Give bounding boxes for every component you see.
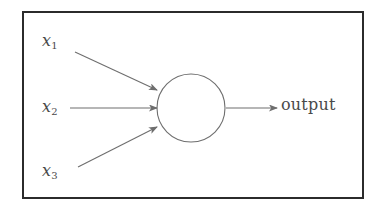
input-label-x2: x2 <box>42 99 58 117</box>
input-label-x2-sub: 2 <box>51 106 57 117</box>
input-label-x3: x3 <box>42 163 58 181</box>
input-label-x3-base: x <box>42 161 51 180</box>
input-label-x1: x1 <box>42 33 58 51</box>
figure-canvas: x1 x2 x3 output <box>0 0 384 211</box>
input-label-x2-base: x <box>42 97 51 116</box>
neuron-node-circle <box>157 74 225 142</box>
input-label-x3-sub: 3 <box>51 170 57 181</box>
edge-x3-to-node <box>78 127 157 167</box>
output-label: output <box>281 97 336 113</box>
input-label-x1-base: x <box>42 31 51 50</box>
input-label-x1-sub: 1 <box>51 40 57 51</box>
edge-x1-to-node <box>75 52 157 90</box>
